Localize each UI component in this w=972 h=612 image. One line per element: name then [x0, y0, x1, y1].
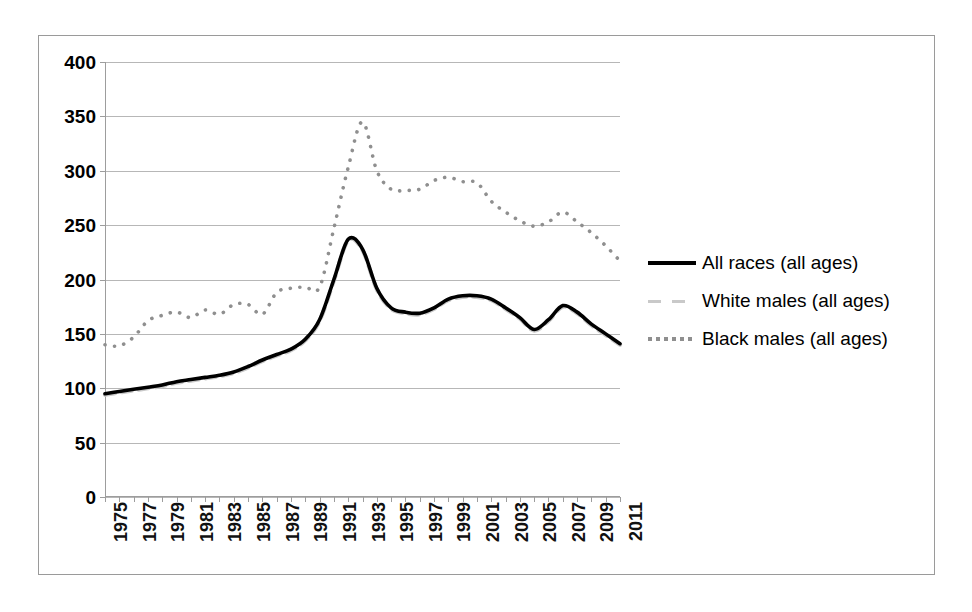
- y-tick-label: 350: [64, 107, 96, 126]
- y-tick-label: 250: [64, 216, 96, 235]
- y-tick-label: 0: [85, 488, 96, 507]
- y-tick-label: 150: [64, 324, 96, 343]
- y-tick-label: 100: [64, 379, 96, 398]
- legend-label: Black males (all ages): [702, 328, 888, 350]
- x-tick-label: 1987: [284, 502, 302, 542]
- chart-figure: 050100150200250300350400 197519771979198…: [0, 0, 972, 612]
- legend-item[interactable]: White males (all ages): [648, 282, 928, 320]
- plot-frame: [105, 62, 620, 497]
- legend-swatch-dashed-icon: [648, 294, 696, 308]
- x-tick-label: 2003: [513, 502, 531, 542]
- y-tick-label: 300: [64, 161, 96, 180]
- legend-item[interactable]: Black males (all ages): [648, 320, 928, 358]
- x-tick-label: 1979: [169, 502, 187, 542]
- x-tick-label: 2009: [598, 502, 616, 542]
- x-tick-label: 1977: [141, 502, 159, 542]
- y-axis-tick-labels: 050100150200250300350400: [46, 62, 96, 497]
- x-tick-label: 1985: [255, 502, 273, 542]
- x-tick-label: 1975: [112, 502, 130, 542]
- x-tick-label: 2001: [484, 502, 502, 542]
- x-tick-label: 1993: [370, 502, 388, 542]
- x-tick-label: 1999: [455, 502, 473, 542]
- x-tick-label: 1981: [198, 502, 216, 542]
- legend-swatch-dotted-icon: [648, 332, 696, 346]
- x-tick-label: 2007: [570, 502, 588, 542]
- plot-area: [105, 62, 620, 497]
- y-tick-label: 400: [64, 53, 96, 72]
- x-tick-label: 2005: [541, 502, 559, 542]
- x-tick-label: 1983: [226, 502, 244, 542]
- x-tick-label: 2011: [627, 502, 645, 541]
- legend-label: All races (all ages): [702, 252, 858, 274]
- y-tick-label: 200: [64, 270, 96, 289]
- series-line: [105, 239, 620, 395]
- series-line: [105, 122, 620, 346]
- x-axis-tick-labels: 1975197719791981198319851987198919911993…: [105, 502, 620, 572]
- y-tick-label: 50: [75, 433, 96, 452]
- x-tick-mark: [620, 497, 621, 502]
- series-line: [105, 238, 620, 394]
- x-tick-label: 1995: [398, 502, 416, 542]
- legend-item[interactable]: All races (all ages): [648, 244, 928, 282]
- data-series-layer: [105, 62, 620, 497]
- x-tick-label: 1997: [427, 502, 445, 542]
- legend-label: White males (all ages): [702, 290, 890, 312]
- legend-swatch-solid-icon: [648, 256, 696, 270]
- x-tick-label: 1991: [341, 502, 359, 542]
- x-tick-label: 1989: [312, 502, 330, 542]
- chart-legend: All races (all ages)White males (all age…: [648, 244, 928, 358]
